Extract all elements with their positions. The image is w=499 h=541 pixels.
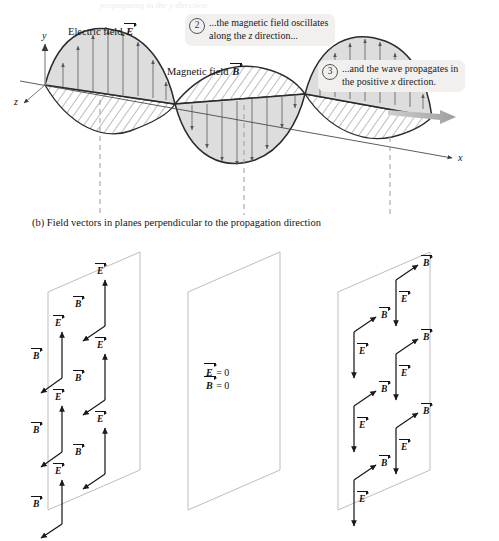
- right-plane-e-label-6: E: [358, 494, 366, 504]
- callout-3-line2-post: direction.: [395, 76, 436, 87]
- callout-2-line1: ...the magnetic field oscillates: [209, 17, 328, 28]
- right-plane-e-label-1: E: [400, 294, 408, 304]
- callout-2-text: ...the magnetic field oscillates along t…: [209, 17, 328, 42]
- right-plane-b-label-3: B: [422, 332, 430, 342]
- middle-plane-zero-text: E = 0 B = 0: [205, 366, 229, 392]
- magnetic-field-label-text: Magnetic field: [167, 66, 229, 77]
- left-plane-e-label-2: E: [54, 318, 62, 328]
- e-field-lobe-2: [175, 94, 305, 165]
- electric-field-label: Electric field E: [68, 26, 134, 37]
- callout-2-number: 2: [189, 18, 205, 34]
- left-plane-b-label-5: B: [74, 447, 82, 457]
- callout-3-line2-pre: the positive: [342, 76, 391, 87]
- z-axis: [24, 85, 45, 103]
- right-plane-b-label-5: B: [422, 406, 430, 416]
- right-plane-e-label-2: E: [358, 346, 366, 356]
- planes-diagram: [0, 238, 499, 538]
- right-plane-b-label-2: B: [380, 310, 388, 320]
- right-plane-b-label-6: B: [380, 458, 388, 468]
- y-axis-label: y: [42, 30, 46, 41]
- callout-3-line1: ...and the wave propagates in: [342, 63, 458, 74]
- left-plane-b-label-6: B: [32, 499, 40, 509]
- left-plane-e-label-1: E: [96, 266, 104, 276]
- right-plane-e-label-4: E: [358, 420, 366, 430]
- middle-plane-b-zero: B = 0: [205, 379, 229, 392]
- z-axis-label: z: [14, 96, 18, 107]
- part-b-caption: (b) Field vectors in planes perpendicula…: [32, 217, 321, 228]
- figure-root: propagating in the y direction: [0, 0, 499, 541]
- left-plane-e-label-6: E: [54, 466, 62, 476]
- middle-plane-surface: [188, 252, 280, 510]
- callout-3: 3 ...and the wave propagates in the posi…: [318, 60, 465, 92]
- electric-field-vector-symbol: E: [125, 26, 134, 37]
- magnetic-field-vector-symbol: B: [231, 66, 240, 77]
- x-axis-label: x: [458, 152, 462, 163]
- left-plane-b-label-1: B: [74, 299, 82, 309]
- left-plane-b-label-2: B: [32, 351, 40, 361]
- callout-2-line2-pre: along the: [209, 30, 248, 41]
- electric-field-label-text: Electric field: [68, 26, 123, 37]
- left-plane-e-label-5: E: [96, 414, 104, 424]
- left-plane-e-label-3: E: [96, 340, 104, 350]
- magnetic-field-label: Magnetic field B: [167, 66, 240, 77]
- left-plane-b-label-4: B: [32, 425, 40, 435]
- left-plane-b-label-3: B: [74, 373, 82, 383]
- callout-2: 2 ...the magnetic field oscillates along…: [185, 14, 335, 46]
- right-plane-e-label-3: E: [400, 368, 408, 378]
- callout-3-text: ...and the wave propagates in the positi…: [342, 63, 458, 88]
- callout-2-line2-post: direction...: [252, 30, 298, 41]
- right-plane-b-label-1: B: [422, 258, 430, 268]
- right-plane-e-label-5: E: [400, 442, 408, 452]
- right-plane-b-label-4: B: [380, 384, 388, 394]
- left-plane-e-label-4: E: [54, 392, 62, 402]
- callout-3-number: 3: [322, 64, 338, 80]
